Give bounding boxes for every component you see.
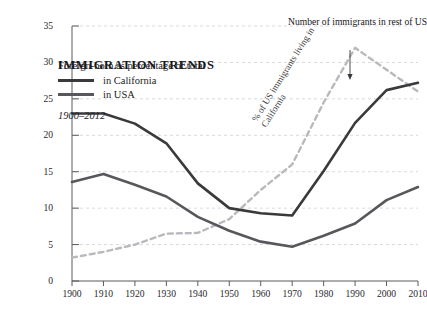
x-axis-tick-label-1970: 1970 xyxy=(275,288,309,299)
x-axis-tick-label-1900: 1900 xyxy=(55,288,89,299)
legend-header: Foreign-born as percentage of total xyxy=(58,59,298,73)
legend-item-california: in California xyxy=(58,74,298,87)
y-axis-tick-label-25: 25 xyxy=(33,93,53,104)
x-axis-tick-label-1930: 1930 xyxy=(149,288,183,299)
legend-label-usa: in USA xyxy=(103,88,135,101)
x-axis-tick-label-2010: 2010 xyxy=(401,288,427,299)
chart-legend: Foreign-born as percentage of total in C… xyxy=(58,59,298,101)
x-axis-tick-label-1990: 1990 xyxy=(338,288,372,299)
legend-swatch-california xyxy=(58,79,94,82)
immigration-trends-chart: IMMIGRATION TRENDS 1900–2012 Foreign-bor… xyxy=(0,0,427,310)
x-axis-tick-label-1980: 1980 xyxy=(307,288,341,299)
y-axis-tick-label-20: 20 xyxy=(33,129,53,140)
y-axis-tick-label-10: 10 xyxy=(33,202,53,213)
legend-label-california: in California xyxy=(103,74,156,87)
x-axis-tick-label-1950: 1950 xyxy=(212,288,246,299)
x-axis-tick-label-1960: 1960 xyxy=(244,288,278,299)
y-axis-tick-label-15: 15 xyxy=(33,166,53,177)
y-axis-tick-label-5: 5 xyxy=(33,239,53,250)
y-axis-tick-label-30: 30 xyxy=(33,56,53,67)
legend-swatch-usa xyxy=(58,93,94,96)
y-axis-tick-label-35: 35 xyxy=(33,20,53,31)
x-axis-tick-label-1920: 1920 xyxy=(118,288,152,299)
annotation-arrow-head xyxy=(347,74,352,80)
x-axis-tick-label-2000: 2000 xyxy=(370,288,404,299)
x-axis-tick-label-1910: 1910 xyxy=(86,288,120,299)
x-axis-tick-label-1940: 1940 xyxy=(181,288,215,299)
y-axis-tick-label-0: 0 xyxy=(33,275,53,286)
